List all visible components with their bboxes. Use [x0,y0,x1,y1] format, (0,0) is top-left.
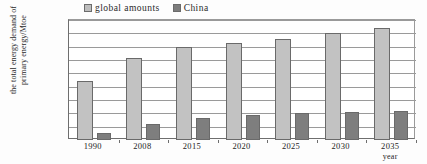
bar-china [345,112,359,140]
bar-group [77,20,111,140]
bar-global-amounts [325,33,341,140]
legend-item-global-amounts: global amounts [84,3,160,13]
x-axis-tick-label: 2008 [119,141,165,151]
bar-group [226,20,260,140]
bar-china [394,111,408,140]
bar-group [275,20,309,140]
bar-global-amounts [176,47,192,140]
y-axis-title-line2: primary energy/Mtoe [19,15,29,85]
bar-china [246,115,260,140]
bar-china [146,124,160,140]
x-axis-tick-label: 1990 [70,141,116,151]
chart-legend: global amounts China [84,1,209,14]
x-axis-labels: 1990200820152020202520302035year [68,141,415,163]
y-axis-title-line1: the total energy demand of [9,6,19,94]
chart-figure: global amounts China the total energy de… [0,0,427,164]
x-axis-tick-label: 2030 [318,141,364,151]
square-swatch-dark-icon [173,4,181,12]
bar-global-amounts [126,58,142,140]
bar-group [126,20,160,140]
bar-global-amounts [374,28,390,140]
x-axis-title: year [367,152,413,161]
square-swatch-light-icon [84,4,92,12]
bar-global-amounts [226,43,242,140]
bar-group [374,20,408,140]
legend-label-china: China [184,3,209,13]
bar-group [176,20,210,140]
x-axis-tick-label: 2035 [367,141,413,151]
bar-global-amounts [77,81,93,140]
x-axis-tick-label: 2020 [219,141,265,151]
bar-global-amounts [275,39,291,140]
bar-groups [69,20,416,140]
x-axis-tick-label: 2015 [169,141,215,151]
y-axis-title: the total energy demand of primary energ… [5,0,33,100]
x-axis-tick-label: 2025 [268,141,314,151]
legend-label-global-amounts: global amounts [95,3,160,13]
bar-china [97,133,111,140]
plot-area: 18,00016,00014,00012,00010,0008000600040… [68,19,415,139]
legend-item-china: China [173,3,209,13]
bar-china [196,118,210,140]
bar-group [325,20,359,140]
bar-china [295,113,309,140]
x-axis-tick-mark [416,140,417,143]
